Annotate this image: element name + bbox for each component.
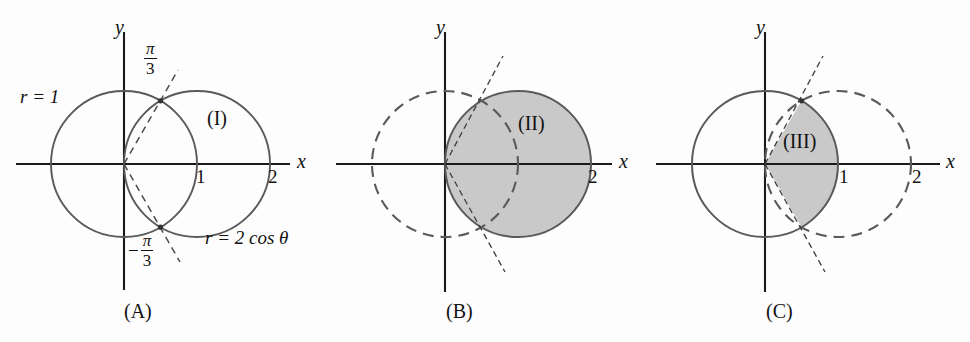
angle-label-pi-over-3: π 3 [144, 40, 157, 77]
panel-name-b: (B) [446, 300, 473, 323]
x-tick-2: 2 [912, 166, 922, 188]
y-axis-label: y [115, 16, 124, 39]
panel-b: x y 2 (II) (B) [320, 0, 640, 342]
x-axis-label: x [619, 150, 628, 173]
panel-name-c: (C) [766, 300, 793, 323]
x-tick-2: 2 [268, 166, 278, 188]
cosine-circle-label: r = 2 cos θ [205, 227, 288, 249]
intersection-upper [158, 98, 163, 103]
x-axis-label: x [297, 150, 306, 173]
intersection-upper [799, 98, 804, 103]
angle-label-negative-pi-over-3: − π 3 [128, 232, 153, 269]
angle-upper-denominator: 3 [144, 60, 157, 77]
angle-lower-numerator: π [141, 232, 154, 249]
polar-figure-set: x y 1 2 r = 1 r = 2 cos θ (I) π 3 − π 3 … [0, 0, 970, 342]
intersection-lower [158, 225, 163, 230]
region-label-III: (III) [783, 130, 816, 153]
region-label-II: (II) [518, 112, 545, 135]
x-tick-1: 1 [839, 166, 849, 188]
angle-lower-sign: − [128, 240, 139, 262]
unit-circle-label: r = 1 [20, 86, 59, 108]
panel-name-a: (A) [124, 300, 152, 323]
x-axis-label: x [946, 150, 955, 173]
ray-pi-over-3 [124, 70, 178, 164]
angle-upper-numerator: π [144, 40, 157, 57]
angle-lower-denominator: 3 [141, 252, 154, 269]
x-tick-2: 2 [588, 166, 598, 188]
x-tick-1: 1 [196, 166, 206, 188]
region-label-I: (I) [207, 107, 227, 130]
y-axis-label: y [436, 16, 445, 39]
panel-c: x y 1 2 (III) (C) [640, 0, 960, 342]
y-axis-label: y [756, 16, 765, 39]
panel-a: x y 1 2 r = 1 r = 2 cos θ (I) π 3 − π 3 … [0, 0, 320, 342]
